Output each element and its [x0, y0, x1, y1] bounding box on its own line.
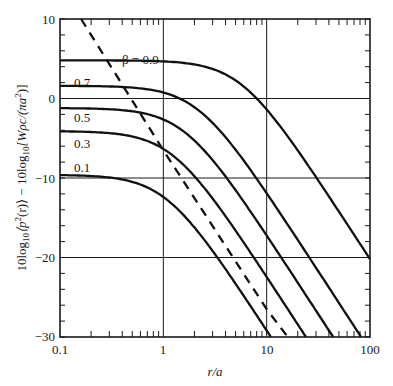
- curve-label-0.9: β = 0.9: [122, 52, 159, 67]
- x-tick-1: 1: [160, 342, 167, 357]
- curve--0.7: [60, 86, 361, 337]
- curve-label-0.7: 0.7: [74, 75, 91, 90]
- y-axis-title: 10log10⟨p2(r)⟩ − 10log10[Wρc/(πa2)]: [13, 84, 31, 271]
- x-tick-0.1: 0.1: [52, 342, 68, 357]
- y-tick-0: 0: [49, 91, 56, 106]
- x-tick-100: 100: [360, 342, 380, 357]
- curve--0.1: [60, 175, 271, 337]
- x-tick-10: 10: [261, 342, 274, 357]
- curve-label-0.3: 0.3: [74, 136, 90, 151]
- chart: 10 0 −10 −20 −30 0.1 1 10 100 r/a 10log1…: [0, 0, 393, 386]
- y-tick-10: 10: [42, 12, 55, 27]
- x-axis-title: r/a: [207, 364, 223, 379]
- curve--0.3: [60, 131, 306, 337]
- curve--0.9: [60, 60, 370, 259]
- y-tick-minus10: −10: [35, 171, 55, 186]
- curve-label-0.1: 0.1: [74, 160, 90, 175]
- curve-label-0.5: 0.5: [74, 110, 90, 125]
- y-tick-minus20: −20: [35, 250, 55, 265]
